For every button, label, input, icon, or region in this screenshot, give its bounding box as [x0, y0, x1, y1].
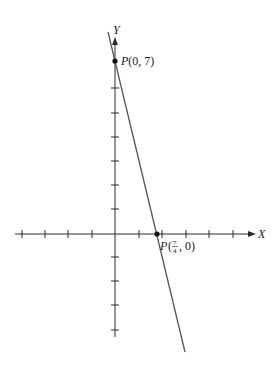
point-p-0-7: P(0, 7): [112, 54, 154, 68]
svg-text:(: (: [168, 239, 172, 253]
fraction-numerator: 7: [173, 239, 177, 247]
svg-text:P(0, 7): P(0, 7): [120, 54, 154, 68]
x-axis-label: X: [257, 227, 266, 241]
point-marker-icon: [154, 231, 159, 236]
point-marker-icon: [112, 58, 117, 63]
point-label-rest: , 0): [179, 239, 195, 253]
coordinate-diagram: X Y P(0, 7) P ( 7 4: [0, 0, 275, 371]
point-label-name: P: [159, 239, 168, 253]
fraction-denominator: 4: [173, 247, 177, 255]
y-axis: Y: [111, 23, 121, 337]
x-axis-arrow-icon: [248, 231, 256, 237]
point-label-coords: (0, 7): [128, 54, 154, 68]
point-p-7-4-0: P ( 7 4 , 0): [154, 231, 195, 255]
y-axis-label: Y: [113, 23, 121, 37]
plotted-line: [108, 32, 185, 352]
y-axis-arrow-icon: [112, 37, 118, 45]
x-axis: X: [15, 227, 266, 241]
